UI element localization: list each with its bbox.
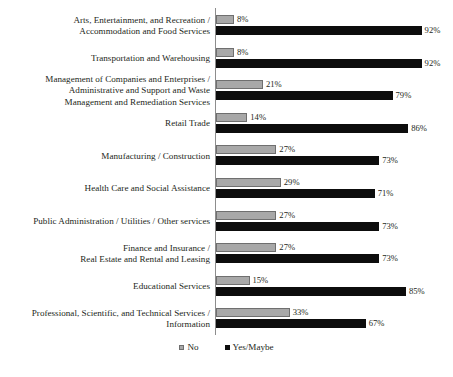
bar-no-wrapper: 8%	[216, 15, 453, 24]
bar-no-wrapper: 8%	[216, 48, 453, 57]
plot-area: Arts, Entertainment, and Recreation / Ac…	[0, 0, 453, 340]
bar-yes-wrapper: 92%	[216, 59, 453, 68]
category-label: Management of Companies and Enterprises …	[5, 74, 210, 108]
chart-row: Transportation and Warehousing8%92%	[0, 41, 453, 74]
bar-value-label: 79%	[396, 90, 412, 101]
category-label: Public Administration / Utilities / Othe…	[5, 216, 210, 227]
category-label: Professional, Scientific, and Technical …	[5, 308, 210, 330]
chart-row: Arts, Entertainment, and Recreation / Ac…	[0, 8, 453, 41]
bar-no	[216, 178, 281, 187]
category-label: Finance and Insurance / Real Estate and …	[5, 243, 210, 265]
legend-swatch-icon	[179, 345, 184, 350]
bar-value-label: 15%	[253, 275, 269, 286]
bar-value-label: 92%	[425, 58, 441, 69]
bar-yes-maybe	[216, 189, 375, 198]
legend-item-no[interactable]: No	[179, 342, 198, 353]
bar-yes-wrapper: 92%	[216, 26, 453, 35]
category-label: Health Care and Social Assistance	[5, 183, 210, 194]
bar-yes-maybe	[216, 91, 393, 100]
bar-yes-maybe	[216, 59, 422, 68]
bar-value-label: 27%	[279, 144, 295, 155]
bar-no-wrapper: 21%	[216, 80, 453, 89]
category-label: Educational Services	[5, 281, 210, 292]
bar-yes-wrapper: 73%	[216, 222, 453, 231]
bar-no-wrapper: 15%	[216, 276, 453, 285]
chart-row: Professional, Scientific, and Technical …	[0, 301, 453, 334]
bar-yes-wrapper: 67%	[216, 319, 453, 328]
bar-value-label: 67%	[369, 318, 385, 329]
row-bars: 29%71%	[216, 171, 453, 198]
chart-legend: NoYes/Maybe	[0, 342, 453, 353]
bar-no-wrapper: 27%	[216, 145, 453, 154]
row-bars: 8%92%	[216, 41, 453, 68]
bar-no-wrapper: 27%	[216, 211, 453, 220]
bar-no	[216, 113, 247, 122]
bar-yes-maybe	[216, 222, 379, 231]
bar-value-label: 71%	[378, 188, 394, 199]
bar-yes-wrapper: 73%	[216, 156, 453, 165]
bar-yes-wrapper: 86%	[216, 124, 453, 133]
bar-no	[216, 145, 276, 154]
category-label: Manufacturing / Construction	[5, 151, 210, 162]
row-bars: 27%73%	[216, 236, 453, 263]
bar-value-label: 29%	[284, 177, 300, 188]
bar-no	[216, 80, 263, 89]
chart-row: Public Administration / Utilities / Othe…	[0, 204, 453, 237]
bar-value-label: 73%	[382, 155, 398, 166]
bar-value-label: 73%	[382, 221, 398, 232]
chart-row: Management of Companies and Enterprises …	[0, 73, 453, 106]
chart-row: Educational Services15%85%	[0, 269, 453, 302]
bar-no	[216, 48, 234, 57]
legend-item-yes-maybe[interactable]: Yes/Maybe	[225, 342, 274, 353]
bar-no	[216, 276, 250, 285]
legend-swatch-icon	[225, 345, 230, 350]
row-bars: 15%85%	[216, 269, 453, 296]
bar-yes-maybe	[216, 26, 422, 35]
row-bars: 21%79%	[216, 73, 453, 100]
bar-value-label: 85%	[409, 286, 425, 297]
bar-value-label: 27%	[279, 242, 295, 253]
category-label: Transportation and Warehousing	[5, 53, 210, 64]
row-bars: 14%86%	[216, 106, 453, 133]
row-bars: 27%73%	[216, 204, 453, 231]
bar-value-label: 73%	[382, 253, 398, 264]
row-bars: 27%73%	[216, 138, 453, 165]
bar-value-label: 8%	[237, 47, 248, 58]
row-bars: 8%92%	[216, 8, 453, 35]
bar-no-wrapper: 33%	[216, 308, 453, 317]
bar-yes-maybe	[216, 319, 366, 328]
bar-yes-wrapper: 85%	[216, 287, 453, 296]
chart-rows: Arts, Entertainment, and Recreation / Ac…	[0, 8, 453, 334]
category-label: Retail Trade	[5, 118, 210, 129]
bar-no	[216, 211, 276, 220]
chart-row: Finance and Insurance / Real Estate and …	[0, 236, 453, 269]
bar-no	[216, 308, 290, 317]
bar-value-label: 33%	[293, 307, 309, 318]
row-bars: 33%67%	[216, 301, 453, 328]
bar-yes-wrapper: 73%	[216, 254, 453, 263]
bar-value-label: 14%	[250, 112, 266, 123]
legend-label: No	[187, 342, 198, 353]
bar-value-label: 27%	[279, 210, 295, 221]
bar-value-label: 21%	[266, 79, 282, 90]
chart-row: Manufacturing / Construction27%73%	[0, 138, 453, 171]
bar-yes-wrapper: 71%	[216, 189, 453, 198]
bar-no-wrapper: 14%	[216, 113, 453, 122]
bar-yes-maybe	[216, 287, 406, 296]
bar-no-wrapper: 27%	[216, 243, 453, 252]
bar-value-label: 86%	[411, 123, 427, 134]
bar-yes-maybe	[216, 124, 408, 133]
legend-label: Yes/Maybe	[233, 342, 274, 353]
bar-value-label: 8%	[237, 14, 248, 25]
bar-no-wrapper: 29%	[216, 178, 453, 187]
bar-chart: Arts, Entertainment, and Recreation / Ac…	[0, 0, 453, 377]
bar-no	[216, 15, 234, 24]
chart-row: Retail Trade14%86%	[0, 106, 453, 139]
bar-no	[216, 243, 276, 252]
chart-row: Health Care and Social Assistance29%71%	[0, 171, 453, 204]
bar-yes-wrapper: 79%	[216, 91, 453, 100]
bar-value-label: 92%	[425, 25, 441, 36]
category-label: Arts, Entertainment, and Recreation / Ac…	[5, 15, 210, 37]
bar-yes-maybe	[216, 156, 379, 165]
bar-yes-maybe	[216, 254, 379, 263]
